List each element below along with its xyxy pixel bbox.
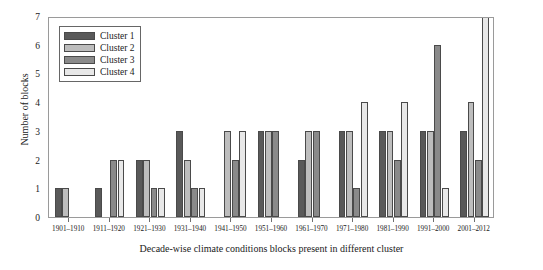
bar (339, 131, 346, 217)
bar (468, 102, 475, 217)
legend-swatch (64, 68, 95, 76)
bar (232, 160, 239, 217)
x-tick-label: 1941–1950 (214, 225, 246, 233)
x-tick-label: 1921–1930 (133, 225, 165, 233)
legend-label: Cluster 4 (100, 67, 135, 77)
bar (305, 131, 312, 217)
x-tick-mark (190, 218, 191, 222)
bar (353, 188, 360, 217)
bar (199, 188, 206, 217)
bar (272, 131, 279, 217)
bar (387, 131, 394, 217)
bar (427, 131, 434, 217)
bar (420, 131, 427, 217)
bar (401, 102, 408, 217)
x-tick-mark (230, 218, 231, 222)
legend-item: Cluster 2 (64, 42, 135, 54)
y-tick-label: 7 (0, 12, 40, 22)
bar (184, 160, 191, 217)
legend-label: Cluster 1 (100, 31, 135, 41)
bar (191, 188, 198, 217)
x-tick-label: 1951–1960 (255, 225, 287, 233)
legend-item: Cluster 1 (64, 30, 135, 42)
bar (151, 188, 158, 217)
bar (239, 131, 246, 217)
x-tick-mark (433, 218, 434, 222)
bar (475, 160, 482, 217)
bar (62, 188, 69, 217)
legend-swatch (64, 44, 95, 52)
bar (143, 160, 150, 217)
legend-item: Cluster 3 (64, 54, 135, 66)
bar (158, 188, 165, 217)
bar (460, 131, 467, 217)
bar (95, 188, 102, 217)
bar (313, 131, 320, 217)
x-tick-mark (271, 218, 272, 222)
y-tick-label: 1 (0, 184, 40, 194)
bar (258, 131, 265, 217)
y-tick-label: 2 (0, 156, 40, 166)
y-tick-label: 4 (0, 98, 40, 108)
figure: Number of blocks 01234567 1901–19101911–… (0, 0, 543, 270)
bar (346, 131, 353, 217)
legend-swatch (64, 56, 95, 64)
x-tick-mark (149, 218, 150, 222)
bar (118, 160, 125, 217)
bar (482, 17, 489, 217)
x-tick-mark (312, 218, 313, 222)
legend-item: Cluster 4 (64, 66, 135, 78)
legend: Cluster 1Cluster 2Cluster 3Cluster 4 (59, 26, 141, 82)
legend-label: Cluster 3 (100, 55, 135, 65)
bar (55, 188, 62, 217)
bar (379, 131, 386, 217)
bar (298, 160, 305, 217)
bar (176, 131, 183, 217)
x-tick-label: 1981–1990 (376, 225, 408, 233)
x-axis-title: Decade-wise climate conditions blocks pr… (0, 243, 543, 254)
bar (224, 131, 231, 217)
x-tick-label: 1901–1910 (52, 225, 84, 233)
bar (110, 160, 117, 217)
x-tick-label: 2001–2012 (458, 225, 490, 233)
legend-label: Cluster 2 (100, 43, 135, 53)
x-tick-mark (474, 218, 475, 222)
x-tick-mark (352, 218, 353, 222)
bar (136, 160, 143, 217)
y-tick-label: 6 (0, 41, 40, 51)
legend-swatch (64, 32, 95, 40)
x-tick-label: 1911–1920 (93, 225, 125, 233)
x-tick-mark (109, 218, 110, 222)
x-tick-mark (393, 218, 394, 222)
x-tick-label: 1971–1980 (336, 225, 368, 233)
bar (434, 45, 441, 217)
y-tick-label: 0 (0, 213, 40, 223)
x-tick-mark (68, 218, 69, 222)
bar (394, 160, 401, 217)
bar (442, 188, 449, 217)
y-tick-label: 3 (0, 127, 40, 137)
bar (265, 131, 272, 217)
bar (361, 102, 368, 217)
x-tick-label: 1931–1940 (174, 225, 206, 233)
x-tick-label: 1991–2000 (417, 225, 449, 233)
x-tick-label: 1961–1970 (295, 225, 327, 233)
y-tick-label: 5 (0, 69, 40, 79)
